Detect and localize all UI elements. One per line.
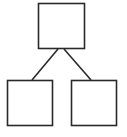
node-right-child: [72, 81, 117, 126]
edge-root-left: [32, 49, 58, 80]
edge-root-right: [64, 49, 91, 80]
tree-diagram: [0, 0, 127, 137]
node-root: [39, 4, 85, 49]
node-left-child: [8, 81, 53, 126]
